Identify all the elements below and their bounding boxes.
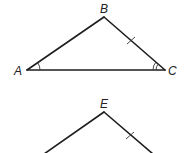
side-bc	[104, 17, 165, 70]
triangle-abc: A B C	[13, 2, 177, 78]
vertex-label-a: A	[13, 64, 22, 78]
vertex-label-e: E	[100, 97, 109, 111]
angle-c-arc-inner	[156, 64, 158, 70]
side-e-right-tick	[126, 132, 134, 139]
side-e-right	[104, 112, 153, 153]
vertex-label-c: C	[168, 64, 177, 78]
geometry-diagram: A B C E	[0, 0, 184, 153]
side-e-left	[44, 112, 104, 153]
triangle-e-partial: E	[44, 97, 153, 153]
angle-a-arc	[38, 63, 40, 70]
vertex-label-b: B	[100, 2, 108, 16]
side-ab	[27, 17, 104, 70]
angle-c-arc-outer	[153, 62, 156, 70]
